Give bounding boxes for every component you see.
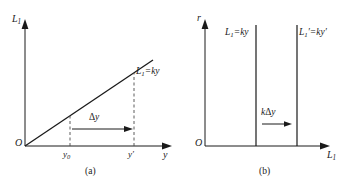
equation-label-b-2: L1′=ky′ (299, 28, 327, 39)
y-axis-a (22, 19, 29, 146)
panel-b: r L1 O L1=ky L1′=ky′ kΔy (b) (181, 0, 362, 187)
equation-label-a: L1=ky (136, 67, 160, 78)
tick-label-yprime: y′ (128, 150, 134, 159)
panel-a: L1 y O L1=ky y0 y′ Δy (a) (0, 0, 181, 187)
x-axis-label-b: L1 (327, 150, 336, 162)
x-axis-b (205, 143, 330, 150)
shift-arrow-a (72, 126, 133, 132)
tick-label-y0: y0 (63, 150, 70, 160)
figure-container: L1 y O L1=ky y0 y′ Δy (a) (0, 0, 362, 187)
shift-label-k-delta-y: kΔy (261, 108, 276, 118)
shift-label-delta-y: Δy (89, 113, 99, 123)
origin-label-b: O (195, 138, 202, 148)
r-axis-b (202, 19, 209, 146)
panel-caption-a: (a) (85, 166, 96, 176)
x-axis-label-a: y (163, 150, 167, 160)
y-axis-label-b: r (197, 13, 201, 23)
origin-label-a: O (15, 138, 22, 148)
x-axis-a (25, 143, 172, 150)
panel-caption-b: (b) (259, 166, 270, 176)
shift-arrow-b (262, 121, 292, 127)
equation-label-b-1: L1=ky (225, 28, 249, 39)
panel-a-graphics (0, 0, 181, 187)
y-axis-label-a: L1 (12, 14, 21, 26)
